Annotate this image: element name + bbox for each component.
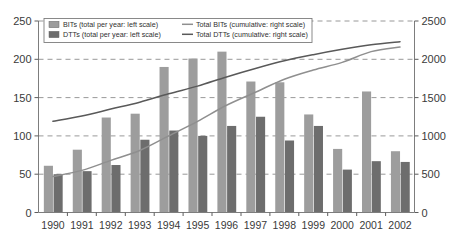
y-axis-left-tick-label: 50 xyxy=(19,168,31,180)
x-axis-tick-label-2002: 2002 xyxy=(388,219,412,231)
bar-bits-1998 xyxy=(275,82,284,212)
bar-dtts-1995 xyxy=(198,136,207,213)
y-axis-right-tick-label: 0 xyxy=(422,207,428,219)
bar-dtts-1998 xyxy=(285,141,294,213)
bar-dtts-2000 xyxy=(343,170,352,213)
legend-swatch xyxy=(49,21,59,27)
bar-dtts-1993 xyxy=(140,140,149,213)
bar-bits-1993 xyxy=(131,114,140,213)
y-axis-left-tick-label: 250 xyxy=(13,15,31,27)
bar-dtts-1991 xyxy=(82,171,91,212)
bar-bits-2001 xyxy=(362,91,371,212)
legend-label: Total DTTs (cumulative: right scale) xyxy=(196,30,308,39)
x-axis-tick-label-1996: 1996 xyxy=(215,219,239,231)
bar-dtts-1994 xyxy=(169,131,178,213)
bar-bits-1995 xyxy=(188,59,197,213)
bar-bits-1991 xyxy=(73,150,82,213)
bar-bits-2000 xyxy=(333,149,342,213)
legend-label: Total BITs (cumulative: right scale) xyxy=(196,20,305,29)
chart-figure: 050100150200250 05001000150020002500 199… xyxy=(0,0,458,241)
bar-bits-1999 xyxy=(304,114,313,212)
y-axis-right-tick-label: 500 xyxy=(422,168,440,180)
bar-dtts-1990 xyxy=(54,174,63,212)
y-axis-right-tick-label: 2000 xyxy=(422,53,446,65)
x-axis-tick-label-1994: 1994 xyxy=(157,219,181,231)
x-axis-tick-label-2001: 2001 xyxy=(359,219,383,231)
legend-label: DTTs (total per year: left scale) xyxy=(63,30,161,39)
chart-legend: BITs (total per year: left scale)DTTs (t… xyxy=(44,19,312,43)
y-axis-left-tick-label: 0 xyxy=(25,207,31,219)
legend-swatch xyxy=(49,31,59,37)
x-axis-tick-label-1998: 1998 xyxy=(273,219,297,231)
bar-dtts-2001 xyxy=(372,161,381,212)
bar-bits-1997 xyxy=(246,82,255,213)
bar-dtts-1997 xyxy=(256,117,265,213)
y-axis-left-tick-label: 100 xyxy=(13,130,31,142)
x-axis-tick-label-1991: 1991 xyxy=(70,219,94,231)
y-axis-right-tick-label: 2500 xyxy=(422,15,446,27)
legend-label: BITs (total per year: left scale) xyxy=(63,20,158,29)
bar-bits-2002 xyxy=(391,151,400,212)
x-axis-tick-label-1992: 1992 xyxy=(99,219,123,231)
bar-dtts-1999 xyxy=(314,126,323,213)
bar-bits-1996 xyxy=(217,52,226,213)
bar-dtts-2002 xyxy=(401,162,410,213)
x-axis-tick-label-1997: 1997 xyxy=(244,219,268,231)
x-axis-tick-label-1993: 1993 xyxy=(128,219,152,231)
x-axis-tick-label-1995: 1995 xyxy=(186,219,210,231)
y-axis-right-tick-label: 1000 xyxy=(422,130,446,142)
x-axis-tick-label-1999: 1999 xyxy=(302,219,326,231)
bar-dtts-1992 xyxy=(111,165,120,212)
bar-bits-1992 xyxy=(102,118,111,213)
bar-bits-1990 xyxy=(44,166,53,213)
y-axis-right-tick-label: 1500 xyxy=(422,92,446,104)
y-axis-left-tick-label: 200 xyxy=(13,53,31,65)
x-axis-tick-label-1990: 1990 xyxy=(41,219,65,231)
grouped-bar-and-line-chart: 050100150200250 05001000150020002500 199… xyxy=(0,0,458,241)
y-axis-left-tick-label: 150 xyxy=(13,92,31,104)
x-axis-tick-label-2000: 2000 xyxy=(331,219,355,231)
bar-dtts-1996 xyxy=(227,126,236,213)
